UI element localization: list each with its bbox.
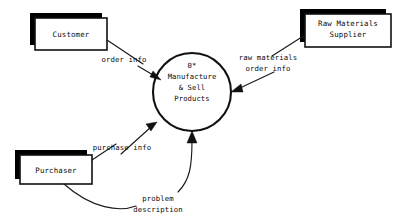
problem-description-line	[64, 184, 136, 209]
customer-label: Customer	[53, 30, 90, 39]
process-label-line2: & Sell	[179, 83, 206, 92]
data-flow-purchase-info[interactable]: purchase info	[92, 122, 157, 160]
raw-materials-supplier-label-line1: Raw Materials	[318, 19, 378, 28]
order-info-label: order info	[102, 55, 147, 64]
problem-description-label-line2: description	[133, 205, 182, 214]
problem-description-line-tail	[178, 140, 192, 192]
data-flow-raw-materials-order-info[interactable]: raw materials order info	[231, 35, 305, 92]
process-label-line1: Manufacture	[168, 72, 217, 81]
purchaser-label: Purchaser	[35, 166, 77, 175]
data-flow-order-info[interactable]: order info	[102, 40, 161, 80]
raw-materials-order-info-arrowhead	[231, 84, 243, 92]
dfd-drawing-surface: Customer Raw Materials Supplier Purchase…	[0, 0, 400, 224]
problem-description-label-line1: problem	[142, 194, 174, 203]
purchase-info-label: purchase info	[93, 143, 151, 152]
process-manufacture-sell-products[interactable]: 0* Manufacture & Sell Products	[153, 53, 231, 131]
external-entity-purchaser[interactable]: Purchaser	[15, 150, 92, 184]
external-entity-customer[interactable]: Customer	[30, 13, 107, 50]
raw-materials-supplier-label-line2: Supplier	[330, 30, 367, 39]
dfd-canvas: Customer Raw Materials Supplier Purchase…	[0, 0, 400, 224]
raw-materials-order-info-line-tail	[240, 72, 274, 88]
problem-description-arrowhead	[187, 131, 197, 143]
external-entity-raw-materials-supplier[interactable]: Raw Materials Supplier	[300, 9, 391, 47]
process-number: 0*	[188, 61, 197, 70]
raw-materials-order-info-label-line2: order info	[246, 64, 291, 73]
raw-materials-order-info-label-line1: raw materials	[239, 53, 297, 62]
process-label-line3: Products	[174, 94, 209, 103]
